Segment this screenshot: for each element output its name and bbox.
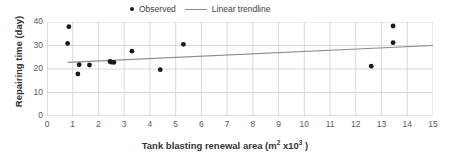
x-tick-label: 2 xyxy=(86,119,110,129)
x-axis-title-mid: x10 xyxy=(280,140,299,151)
x-tick-label: 9 xyxy=(267,119,291,129)
x-tick-label: 6 xyxy=(189,119,213,129)
x-axis-tick-labels: 0123456789101112131415 xyxy=(0,119,450,131)
linear-trendline xyxy=(68,46,433,63)
x-tick-label: 7 xyxy=(215,119,239,129)
x-tick-label: 12 xyxy=(344,119,368,129)
x-tick-label: 10 xyxy=(292,119,316,129)
x-tick-label: 14 xyxy=(395,119,419,129)
legend-dot-marker-icon xyxy=(130,7,134,11)
x-tick-label: 4 xyxy=(138,119,162,129)
horizontal-gridlines xyxy=(47,22,433,93)
x-tick-label: 11 xyxy=(318,119,342,129)
x-axis-title-main: Tank blasting renewal area (m xyxy=(142,140,277,151)
x-tick-label: 5 xyxy=(164,119,188,129)
legend-label-observed: Observed xyxy=(139,4,176,14)
y-axis-title: Repairing time (day) xyxy=(13,7,24,117)
legend-entry-observed: Observed xyxy=(130,4,176,14)
x-axis-title-end: ) xyxy=(302,140,308,151)
x-tick-label: 1 xyxy=(61,119,85,129)
x-tick-label: 0 xyxy=(35,119,59,129)
chart-legend: Observed Linear trendline xyxy=(130,2,360,16)
legend-entry-linear-trendline: Linear trendline xyxy=(185,4,271,14)
chart-figure: Observed Linear trendline 010203040 0123… xyxy=(0,0,450,161)
x-tick-label: 15 xyxy=(421,119,445,129)
x-tick-label: 8 xyxy=(241,119,265,129)
x-tick-label: 13 xyxy=(370,119,394,129)
x-axis-title: Tank blasting renewal area (m2 x103 ) xyxy=(0,140,450,151)
x-tick-label: 3 xyxy=(112,119,136,129)
plot-area xyxy=(47,22,433,116)
plot-canvas xyxy=(47,22,433,116)
legend-line-marker-icon xyxy=(185,9,207,10)
legend-label-linear-trendline: Linear trendline xyxy=(212,4,271,14)
